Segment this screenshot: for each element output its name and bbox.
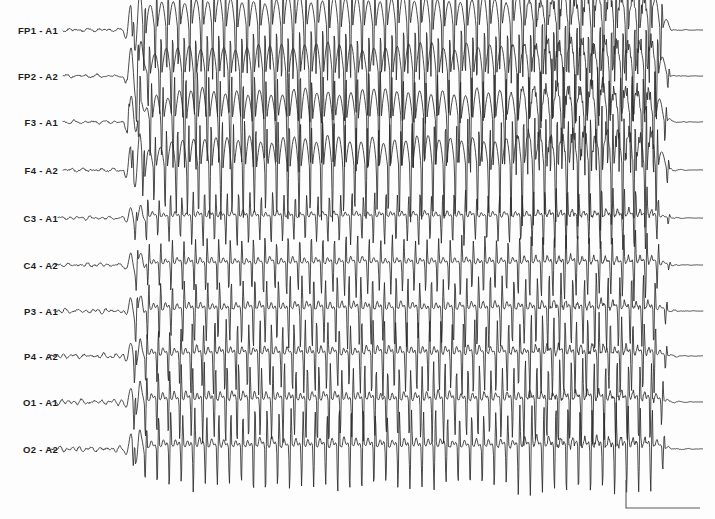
eeg-recording-chart: FP1 - A1FP2 - A2F3 - A1F4 - A2C3 - A1C4 … <box>0 0 715 519</box>
eeg-trace-c3-a1 <box>58 187 703 250</box>
calibration-bar <box>626 480 700 508</box>
eeg-traces-group <box>48 0 703 495</box>
eeg-trace-canvas <box>0 0 715 519</box>
